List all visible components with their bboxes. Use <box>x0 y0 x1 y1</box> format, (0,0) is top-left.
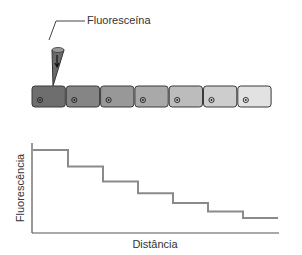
cell <box>169 86 202 107</box>
x-axis-label: Distância <box>132 238 178 250</box>
pipette-leader-line <box>49 21 85 40</box>
cell <box>32 86 65 107</box>
diagram: Distância Fluorescência <box>0 0 302 255</box>
cell <box>66 86 99 107</box>
cell <box>238 86 271 107</box>
cell <box>101 86 134 107</box>
chart: Distância Fluorescência <box>14 143 279 250</box>
y-axis-label: Fluorescência <box>14 153 26 222</box>
pipette-label: Fluoresceína <box>87 14 151 26</box>
pipette-icon <box>52 48 64 87</box>
fluorescence-step-line <box>33 150 278 218</box>
cell-row <box>32 86 271 107</box>
cell <box>204 86 237 107</box>
cell <box>135 86 168 107</box>
